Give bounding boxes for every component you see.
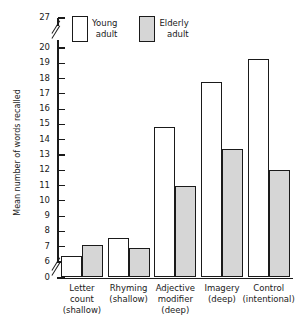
y-tick-label-16: 16 bbox=[0, 104, 50, 113]
legend-label-line-2: adult bbox=[92, 29, 117, 40]
y-tick-12 bbox=[58, 170, 65, 171]
x-axis-line bbox=[57, 278, 293, 280]
y-tick-11 bbox=[58, 185, 65, 186]
y-tick-label-17: 17 bbox=[0, 89, 50, 98]
y-tick-18 bbox=[58, 78, 65, 79]
y-tick-27 bbox=[58, 17, 65, 18]
y-tick-7 bbox=[58, 246, 65, 247]
y-tick-label-7: 7 bbox=[0, 242, 50, 251]
bar-elderly-adult-5 bbox=[269, 170, 290, 277]
legend-label-line-1: Elderly bbox=[159, 18, 188, 29]
legend-item-young-adult: Young adult bbox=[72, 16, 117, 42]
legend-label-young-adult: Young adult bbox=[92, 16, 117, 39]
bar-young-adult-3 bbox=[154, 127, 175, 277]
y-tick-label-6: 6 bbox=[0, 257, 50, 266]
y-tick-label-14: 14 bbox=[0, 135, 50, 144]
legend-swatch-elderly-adult bbox=[139, 16, 155, 42]
y-tick-16 bbox=[58, 109, 65, 110]
x-axis-label-5: Control(intentional) bbox=[237, 283, 300, 305]
y-axis-line bbox=[57, 18, 59, 279]
y-tick-label-8: 8 bbox=[0, 226, 50, 235]
y-tick-label-10: 10 bbox=[0, 196, 50, 205]
y-tick-label-0: 0 bbox=[0, 273, 50, 282]
legend-swatch-young-adult bbox=[72, 16, 88, 42]
y-tick-label-13: 13 bbox=[0, 150, 50, 159]
y-tick-label-11: 11 bbox=[0, 181, 50, 190]
y-tick-17 bbox=[58, 93, 65, 94]
x-axis-label-line-2: (intentional) bbox=[237, 294, 300, 305]
legend-label-elderly-adult: Elderly adult bbox=[159, 16, 188, 39]
legend-label-line-1: Young bbox=[92, 18, 117, 29]
y-tick-label-12: 12 bbox=[0, 165, 50, 174]
x-axis-label-line-3: (shallow) bbox=[51, 305, 114, 316]
x-axis-label-line-3: (deep) bbox=[144, 305, 207, 316]
bar-elderly-adult-4 bbox=[222, 149, 243, 278]
y-tick-10 bbox=[58, 200, 65, 201]
x-axis-label-line-1: Control bbox=[237, 283, 300, 294]
y-tick-label-9: 9 bbox=[0, 211, 50, 220]
axis-break-mask-0 bbox=[54, 26, 62, 40]
bar-young-adult-1 bbox=[61, 256, 82, 278]
y-tick-15 bbox=[58, 124, 65, 125]
legend: Young adult Elderly adult bbox=[72, 16, 189, 42]
bar-young-adult-2 bbox=[108, 238, 129, 278]
y-tick-20 bbox=[58, 47, 65, 48]
bar-young-adult-5 bbox=[248, 59, 269, 278]
bar-young-adult-4 bbox=[201, 82, 222, 278]
y-tick-label-15: 15 bbox=[0, 119, 50, 128]
bar-elderly-adult-1 bbox=[82, 245, 103, 277]
legend-label-line-2: adult bbox=[159, 29, 188, 40]
y-tick-13 bbox=[58, 154, 65, 155]
bar-elderly-adult-3 bbox=[175, 186, 196, 278]
legend-item-elderly-adult: Elderly adult bbox=[139, 16, 188, 42]
y-tick-8 bbox=[58, 231, 65, 232]
y-tick-label-19: 19 bbox=[0, 58, 50, 67]
bar-elderly-adult-2 bbox=[129, 248, 150, 277]
y-tick-label-20: 20 bbox=[0, 43, 50, 52]
y-tick-label-18: 18 bbox=[0, 74, 50, 83]
bar-chart: Mean number of words recalled 0678910111… bbox=[0, 0, 301, 331]
y-tick-label-27: 27 bbox=[0, 13, 50, 22]
y-tick-9 bbox=[58, 216, 65, 217]
y-tick-14 bbox=[58, 139, 65, 140]
y-tick-19 bbox=[58, 63, 65, 64]
